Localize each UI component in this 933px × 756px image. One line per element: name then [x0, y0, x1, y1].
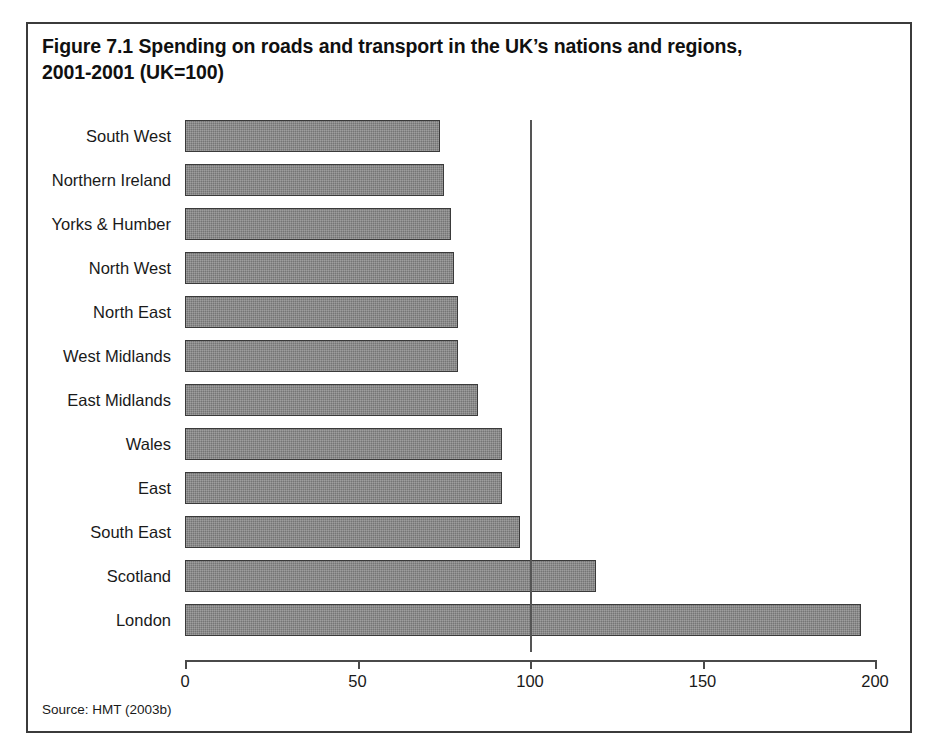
category-label: Wales [126, 428, 171, 460]
x-axis-tick [703, 660, 705, 669]
bar-london [185, 604, 861, 636]
category-label: East Midlands [67, 384, 171, 416]
category-label: North West [89, 252, 171, 284]
x-axis-tick [530, 660, 532, 669]
bar-south-west [185, 120, 440, 152]
bar-north-east [185, 296, 458, 328]
bar-scotland [185, 560, 596, 592]
source-note: Source: HMT (2003b) [42, 702, 172, 717]
bar-wales [185, 428, 502, 460]
reference-line-uk-100 [530, 120, 532, 652]
category-label: Scotland [107, 560, 171, 592]
category-label: London [116, 604, 171, 636]
x-axis-tick [875, 660, 877, 669]
bar-yorks-humber [185, 208, 451, 240]
bar-south-east [185, 516, 520, 548]
plot-area: South WestNorthern IrelandYorks & Humber… [28, 24, 914, 735]
bar-north-west [185, 252, 454, 284]
x-axis-tick-label: 50 [348, 672, 366, 691]
category-label: West Midlands [63, 340, 171, 372]
bar-east [185, 472, 502, 504]
x-axis-tick-label: 200 [861, 672, 889, 691]
x-axis-tick-label: 150 [689, 672, 717, 691]
x-axis-tick-label: 0 [180, 672, 189, 691]
bar-east-midlands [185, 384, 478, 416]
category-label: South East [90, 516, 171, 548]
category-label: Northern Ireland [52, 164, 171, 196]
x-axis-tick-label: 100 [516, 672, 544, 691]
figure-frame: Figure 7.1 Spending on roads and transpo… [26, 22, 912, 733]
x-axis-tick [185, 660, 187, 669]
bar-west-midlands [185, 340, 458, 372]
category-label: East [138, 472, 171, 504]
category-label: Yorks & Humber [51, 208, 171, 240]
category-label: North East [93, 296, 171, 328]
category-label: South West [86, 120, 171, 152]
x-axis-tick [358, 660, 360, 669]
bar-northern-ireland [185, 164, 444, 196]
